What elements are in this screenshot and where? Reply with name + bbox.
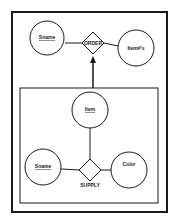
entity-label: Sname bbox=[39, 34, 56, 40]
entity-label: Item#'s bbox=[127, 45, 144, 51]
relationship-supply[interactable]: SUPPLY bbox=[79, 159, 101, 188]
entity-label: Color bbox=[122, 161, 135, 167]
entity-label: Item bbox=[85, 106, 96, 112]
edge-sname-supply bbox=[61, 169, 79, 170]
relationship-label: SUPPLY bbox=[80, 182, 100, 188]
entity-item[interactable]: Item bbox=[72, 92, 108, 128]
relationship-label: ORDER bbox=[84, 40, 102, 46]
entity-items-top[interactable]: Item#'s bbox=[118, 30, 154, 66]
relationship-order[interactable]: ORDER bbox=[82, 32, 104, 54]
entity-color[interactable]: Color bbox=[111, 152, 147, 188]
entity-label: Sname bbox=[35, 163, 52, 169]
arrowhead-icon bbox=[90, 56, 96, 63]
entity-sname-inner[interactable]: Sname bbox=[25, 149, 61, 185]
edge-order-items bbox=[104, 43, 118, 46]
entity-sname-top[interactable]: Sname bbox=[30, 21, 64, 55]
er-diagram: Sname ORDER Item#'s Item Sname SUPPLY Co… bbox=[0, 0, 178, 219]
